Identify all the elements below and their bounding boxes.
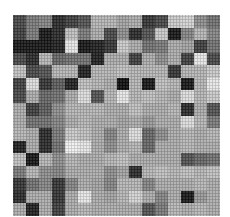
mosaic-cell	[155, 28, 168, 41]
mosaic-cell	[13, 166, 26, 179]
mosaic-cell	[155, 78, 168, 91]
mosaic-cell	[39, 15, 52, 28]
mosaic-cell	[104, 178, 117, 191]
mosaic-cell	[168, 90, 181, 103]
mosaic-cell	[91, 15, 104, 28]
mosaic-cell	[65, 53, 78, 66]
mosaic-cell	[13, 128, 26, 141]
mosaic-cell	[155, 178, 168, 191]
mosaic-cell	[168, 178, 181, 191]
mosaic-cell	[129, 78, 142, 91]
mosaic-cell	[181, 40, 194, 53]
mosaic-cell	[26, 203, 39, 216]
mosaic-cell	[13, 15, 26, 28]
mosaic-cell	[194, 40, 207, 53]
mosaic-cell	[194, 90, 207, 103]
mosaic-cell	[65, 166, 78, 179]
mosaic-cell	[207, 153, 220, 166]
mosaic-cell	[155, 141, 168, 154]
mosaic-cell	[117, 178, 130, 191]
mosaic-cell	[117, 141, 130, 154]
mosaic-cell	[78, 40, 91, 53]
mosaic-cell	[207, 78, 220, 91]
mosaic-cell	[181, 128, 194, 141]
mosaic-cell	[142, 78, 155, 91]
mosaic-cell	[142, 40, 155, 53]
mosaic-cell	[155, 90, 168, 103]
mosaic-cell	[91, 90, 104, 103]
mosaic-cell	[52, 128, 65, 141]
mosaic-cell	[65, 40, 78, 53]
mosaic-cell	[104, 40, 117, 53]
mosaic-cell	[129, 40, 142, 53]
mosaic-cell	[78, 153, 91, 166]
mosaic-cell	[181, 28, 194, 41]
mosaic-cell	[117, 53, 130, 66]
mosaic-cell	[13, 53, 26, 66]
mosaic-cell	[78, 203, 91, 216]
mosaic-cell	[168, 15, 181, 28]
mosaic-cell	[117, 191, 130, 204]
mosaic-cell	[117, 103, 130, 116]
mosaic-cell	[194, 116, 207, 129]
mosaic-cell	[142, 203, 155, 216]
mosaic-cell	[104, 78, 117, 91]
mosaic-cell	[26, 40, 39, 53]
mosaic-cell	[52, 90, 65, 103]
mosaic-cell	[52, 191, 65, 204]
mosaic-cell	[39, 65, 52, 78]
mosaic-cell	[155, 153, 168, 166]
mosaic-cell	[194, 153, 207, 166]
mosaic-cell	[52, 65, 65, 78]
mosaic-cell	[78, 65, 91, 78]
mosaic-cell	[117, 78, 130, 91]
mosaic-cell	[39, 28, 52, 41]
mosaic-cell	[155, 53, 168, 66]
mosaic-cell	[78, 166, 91, 179]
mosaic-cell	[194, 166, 207, 179]
mosaic-cell	[39, 191, 52, 204]
mosaic-cell	[207, 166, 220, 179]
mosaic-cell	[91, 153, 104, 166]
mosaic-cell	[194, 191, 207, 204]
mosaic-cell	[26, 166, 39, 179]
mosaic-cell	[26, 153, 39, 166]
mosaic-cell	[207, 103, 220, 116]
mosaic-cell	[155, 128, 168, 141]
mosaic-cell	[52, 203, 65, 216]
mosaic-cell	[13, 178, 26, 191]
mosaic-cell	[52, 141, 65, 154]
mosaic-cell	[26, 178, 39, 191]
mosaic-cell	[129, 53, 142, 66]
mosaic-cell	[39, 203, 52, 216]
mosaic-cell	[117, 128, 130, 141]
mosaic-cell	[78, 53, 91, 66]
mosaic-cell	[26, 15, 39, 28]
mosaic-cell	[104, 203, 117, 216]
mosaic-cell	[142, 90, 155, 103]
mosaic-cell	[39, 141, 52, 154]
mosaic-cell	[155, 65, 168, 78]
mosaic-cell	[91, 78, 104, 91]
mosaic-cell	[168, 166, 181, 179]
mosaic-cell	[65, 28, 78, 41]
mosaic-cell	[104, 128, 117, 141]
mosaic-cell	[129, 166, 142, 179]
mosaic-cell	[104, 191, 117, 204]
pixel-mosaic-image	[13, 15, 220, 216]
mosaic-cell	[65, 103, 78, 116]
mosaic-cell	[26, 28, 39, 41]
mosaic-cell	[194, 141, 207, 154]
mosaic-cell	[65, 203, 78, 216]
mosaic-cell	[26, 65, 39, 78]
mosaic-cell	[168, 153, 181, 166]
mosaic-cell	[155, 116, 168, 129]
mosaic-cell	[39, 128, 52, 141]
mosaic-cell	[39, 153, 52, 166]
mosaic-cell	[181, 191, 194, 204]
mosaic-cell	[13, 203, 26, 216]
mosaic-cell	[181, 90, 194, 103]
mosaic-cell	[207, 28, 220, 41]
mosaic-cell	[91, 178, 104, 191]
mosaic-cell	[194, 53, 207, 66]
